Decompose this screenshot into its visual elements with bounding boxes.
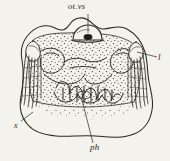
pigment-spot (84, 34, 93, 40)
parenchyma-body (29, 33, 140, 107)
anatomical-diagram-svg (0, 0, 170, 161)
figure-container: ot.vs l x ph (0, 0, 170, 161)
label-lateral-organ: l (158, 53, 161, 62)
label-marginal-point: x (14, 122, 18, 130)
label-optic-vesicle: ot.vs (68, 2, 85, 11)
label-pharynx: ph (90, 143, 100, 152)
